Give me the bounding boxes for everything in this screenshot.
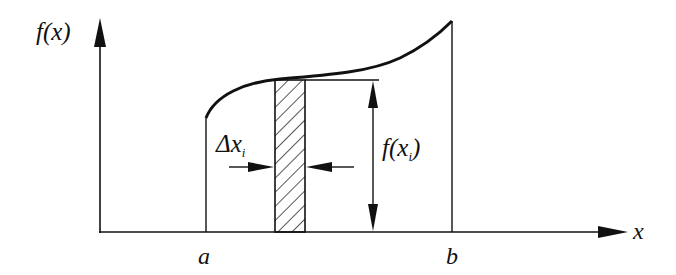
x-axis bbox=[99, 226, 628, 238]
f-xi-prefix: f(x bbox=[382, 134, 408, 161]
delta-x-label: Δxi bbox=[216, 130, 245, 161]
y-axis-arrow-icon bbox=[94, 18, 106, 47]
arrow-left-icon bbox=[306, 162, 332, 172]
y-axis-label: f(x) bbox=[36, 18, 71, 46]
x-axis-arrow-icon bbox=[598, 226, 628, 238]
delta-x-main: Δx bbox=[216, 130, 242, 157]
f-xi-label: f(xi) bbox=[382, 134, 420, 165]
hatched-strip bbox=[275, 80, 305, 232]
riemann-diagram bbox=[0, 0, 676, 275]
y-axis bbox=[94, 18, 106, 233]
delta-x-subscript: i bbox=[242, 145, 246, 160]
x-axis-label: x bbox=[633, 218, 644, 245]
f-xi-suffix: ) bbox=[412, 134, 420, 161]
arrow-up-icon bbox=[368, 81, 378, 108]
height-dimension-arrow bbox=[368, 81, 378, 231]
function-curve bbox=[206, 21, 452, 118]
arrow-down-icon bbox=[368, 204, 378, 231]
arrow-right-icon bbox=[248, 162, 274, 172]
right-bound-label: b bbox=[446, 243, 458, 270]
left-bound-label: a bbox=[198, 243, 210, 270]
